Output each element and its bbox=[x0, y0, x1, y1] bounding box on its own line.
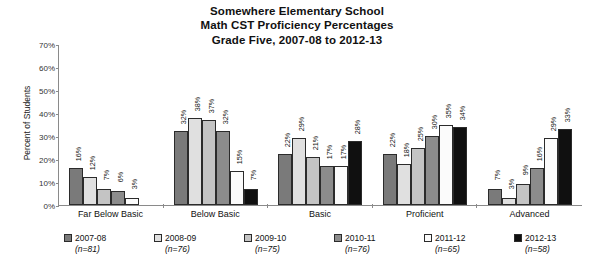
bar-slot: 9% bbox=[516, 45, 530, 205]
x-axis-category-label: Far Below Basic bbox=[58, 209, 163, 219]
bar-value-label: 38% bbox=[186, 109, 195, 123]
x-axis-category-label: Advanced bbox=[477, 209, 582, 219]
bar[interactable]: 38% bbox=[188, 118, 202, 205]
bar-slot: 7% bbox=[97, 45, 111, 205]
bar-value-label: 3% bbox=[500, 192, 509, 202]
chart-legend: 2007-08(n=81)2008-09(n=76)2009-10(n=75)2… bbox=[30, 233, 570, 254]
bar-value-label: 28% bbox=[346, 132, 355, 146]
bar-value-label: 29% bbox=[542, 130, 551, 144]
legend-series-name: 2010-11 bbox=[345, 233, 376, 244]
legend-series-count: (n=65) bbox=[435, 244, 466, 255]
legend-item[interactable]: 2007-08(n=81) bbox=[30, 233, 120, 254]
bar-clusters: 16%12%7%6%3%32%38%37%32%15%7%22%29%21%17… bbox=[59, 45, 582, 205]
legend-label: 2011-12(n=65) bbox=[435, 233, 466, 254]
legend-series-name: 2008-09 bbox=[165, 233, 196, 244]
chart-title-line-2: Math CST Proficiency Percentages bbox=[0, 18, 594, 32]
legend-item[interactable]: 2012-13(n=58) bbox=[480, 233, 570, 254]
bar[interactable]: 25% bbox=[411, 148, 425, 206]
bar-slot: 12% bbox=[83, 45, 97, 205]
legend-series-count: (n=76) bbox=[345, 244, 376, 255]
bar[interactable]: 28% bbox=[348, 141, 362, 205]
bar-slot: 22% bbox=[383, 45, 397, 205]
legend-swatch bbox=[514, 234, 522, 242]
bar-value-label: 16% bbox=[67, 160, 76, 174]
bar-value-label: 32% bbox=[172, 123, 181, 137]
bar-value-label: 16% bbox=[528, 160, 537, 174]
x-axis-category-label: Proficient bbox=[372, 209, 477, 219]
bar[interactable]: 34% bbox=[453, 127, 467, 205]
legend-item[interactable]: 2010-11(n=76) bbox=[300, 233, 390, 254]
bar[interactable]: 32% bbox=[174, 131, 188, 205]
chart-container: Somewhere Elementary School Math CST Pro… bbox=[0, 0, 594, 273]
bar[interactable]: 18% bbox=[397, 164, 411, 205]
legend-item[interactable]: 2008-09(n=76) bbox=[120, 233, 210, 254]
x-axis-category-label: Basic bbox=[268, 209, 373, 219]
legend-label: 2009-10(n=75) bbox=[255, 233, 286, 254]
bar-value-label: 37% bbox=[200, 112, 209, 126]
bar-value-label: 7% bbox=[486, 183, 495, 193]
legend-series-name: 2007-08 bbox=[75, 233, 106, 244]
bar-value-label: 17% bbox=[332, 158, 341, 172]
bar-value-label: 12% bbox=[81, 169, 90, 183]
bar-value-label: 7% bbox=[95, 183, 104, 193]
legend-label: 2007-08(n=81) bbox=[75, 233, 106, 254]
legend-swatch bbox=[154, 234, 162, 242]
bar-cluster: 22%29%21%17%17%28% bbox=[268, 45, 373, 205]
x-axis-category-label: Below Basic bbox=[163, 209, 268, 219]
bar-slot: 16% bbox=[530, 45, 544, 205]
plot-area: 70%60%50%40%30%20%10%0% 16%12%7%6%3%32%3… bbox=[58, 45, 582, 206]
bar-slot: 3% bbox=[125, 45, 139, 205]
bar[interactable]: 17% bbox=[334, 166, 348, 205]
bar-slot: 32% bbox=[174, 45, 188, 205]
chart-title: Somewhere Elementary School Math CST Pro… bbox=[0, 4, 594, 47]
legend-item[interactable]: 2009-10(n=75) bbox=[210, 233, 300, 254]
chart-title-line-1: Somewhere Elementary School bbox=[0, 4, 594, 18]
bar-slot: 29% bbox=[292, 45, 306, 205]
legend-label: 2012-13(n=58) bbox=[525, 233, 556, 254]
bar[interactable]: 9% bbox=[516, 184, 530, 205]
bar[interactable]: 22% bbox=[278, 154, 292, 205]
bar-value-label: 30% bbox=[423, 128, 432, 142]
bar-value-label: 32% bbox=[214, 123, 223, 137]
bar[interactable]: 3% bbox=[125, 198, 139, 205]
bar[interactable]: 30% bbox=[425, 136, 439, 205]
bar[interactable]: 3% bbox=[502, 198, 516, 205]
legend-swatch bbox=[244, 234, 252, 242]
bar-slot: 7% bbox=[488, 45, 502, 205]
bar-cluster: 32%38%37%32%15%7% bbox=[164, 45, 269, 205]
bar[interactable]: 29% bbox=[544, 138, 558, 205]
bar-value-label: 17% bbox=[318, 158, 327, 172]
bar-slot: 17% bbox=[320, 45, 334, 205]
legend-swatch bbox=[424, 234, 432, 242]
bar[interactable]: 7% bbox=[244, 189, 258, 205]
legend-item[interactable]: 2011-12(n=65) bbox=[390, 233, 480, 254]
y-axis-tick-mark bbox=[56, 206, 59, 207]
legend-swatch bbox=[334, 234, 342, 242]
legend-series-name: 2012-13 bbox=[525, 233, 556, 244]
bar-value-label: 9% bbox=[514, 178, 523, 188]
bar-value-label: 7% bbox=[242, 183, 251, 193]
bar-group: 22%29%21%17%17%28% bbox=[278, 45, 362, 205]
bar-slot: 18% bbox=[397, 45, 411, 205]
bar-slot: 33% bbox=[558, 45, 572, 205]
bar-value-label: 34% bbox=[451, 119, 460, 133]
bar-cluster: 16%12%7%6%3% bbox=[59, 45, 164, 205]
bar[interactable]: 33% bbox=[558, 129, 572, 205]
legend-label: 2010-11(n=76) bbox=[345, 233, 376, 254]
bar[interactable]: 35% bbox=[439, 125, 453, 206]
bar-group: 22%18%25%30%35%34% bbox=[383, 45, 467, 205]
legend-series-name: 2011-12 bbox=[435, 233, 466, 244]
bar-value-label: 22% bbox=[381, 146, 390, 160]
bar-slot: 15% bbox=[230, 45, 244, 205]
legend-series-count: (n=81) bbox=[75, 244, 106, 255]
y-axis-title: Percent of Students bbox=[22, 48, 32, 198]
x-axis-category-labels: Far Below BasicBelow BasicBasicProficien… bbox=[58, 209, 582, 219]
bar-slot: 34% bbox=[453, 45, 467, 205]
bar-slot bbox=[139, 45, 153, 205]
bar[interactable]: 16% bbox=[530, 168, 544, 205]
bar-slot: 7% bbox=[244, 45, 258, 205]
bar-value-label: 3% bbox=[123, 192, 132, 202]
bar-slot: 22% bbox=[278, 45, 292, 205]
bar-value-label: 35% bbox=[437, 116, 446, 130]
bar-value-label: 25% bbox=[409, 139, 418, 153]
